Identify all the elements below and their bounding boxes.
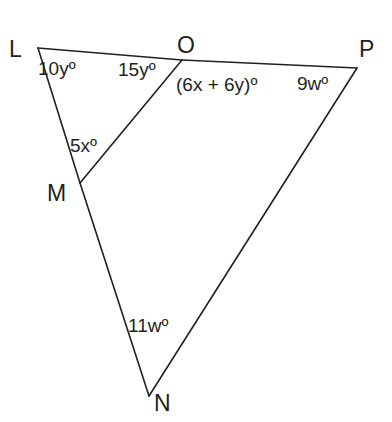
angle-label-10y: 10yº: [38, 59, 76, 78]
diagram-canvas: LOPMN10yº15yº(6x + 6y)º9wº5xº11wº: [0, 0, 392, 422]
vertex-label-p: P: [359, 38, 374, 61]
vertex-label-n: N: [154, 392, 171, 415]
segment-M-N: [80, 183, 149, 396]
vertex-label-m: M: [47, 182, 66, 205]
angle-label-9w: 9wº: [297, 74, 328, 93]
vertex-label-o: O: [177, 34, 195, 57]
segment-P-N: [149, 68, 357, 396]
vertex-label-l: L: [9, 38, 22, 61]
angle-label-6x-plus-6y: (6x + 6y)º: [176, 75, 257, 94]
segment-O-P: [182, 60, 357, 68]
angle-label-15y: 15yº: [118, 60, 156, 79]
angle-label-11w: 11wº: [128, 316, 168, 335]
angle-label-5x: 5xº: [70, 136, 97, 155]
